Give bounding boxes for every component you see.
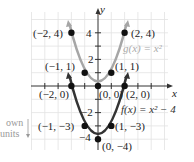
side-annotation-line2: units xyxy=(0,128,20,139)
label-point-neg2-4: (−2, 4) xyxy=(33,27,63,40)
label-point-1-neg3: (1, −3) xyxy=(115,120,145,133)
down-arrow-icon xyxy=(26,134,30,138)
y-tick-4: 4 xyxy=(86,27,92,39)
side-annotation-line1: own xyxy=(6,117,23,128)
label-point-neg1-neg3: (−1, −3) xyxy=(38,120,75,133)
label-f-function: f(x) = x² − 4 xyxy=(121,103,176,116)
graph: y x 4 2 −2 −4 (−2, 4) (2, 4) (−1, 1) (1,… xyxy=(0,0,194,162)
label-g-function: g(x) = x² xyxy=(123,42,163,55)
y-axis-label: y xyxy=(99,3,105,15)
y-tick-2: 2 xyxy=(88,53,94,65)
label-point-0-0: (0, 0) xyxy=(99,88,123,101)
y-tick-neg4: −4 xyxy=(79,131,91,143)
x-axis-label: x xyxy=(171,87,177,99)
label-point-2-4: (2, 4) xyxy=(131,27,155,40)
label-point-0-neg4: (0, −4) xyxy=(102,140,132,153)
label-point-2-0: (2, 0) xyxy=(126,88,150,101)
label-point-neg2-0: (−2, 0) xyxy=(39,88,69,101)
label-point-1-1: (1, 1) xyxy=(115,60,139,73)
label-point-neg1-1: (−1, 1) xyxy=(45,60,75,73)
